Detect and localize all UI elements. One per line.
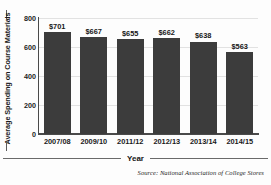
bar-slot: $563: [226, 18, 253, 134]
bar: [44, 32, 71, 134]
x-axis-tick-label: 2012/13: [153, 137, 180, 146]
x-axis-title-rule-right: [150, 158, 268, 159]
x-axis-title: Year: [121, 154, 150, 163]
bar-value-label: $667: [86, 27, 102, 36]
bar-value-label: $655: [122, 29, 138, 38]
y-axis-tick-label: 200: [24, 101, 36, 110]
x-axis-tick-labels: 2007/082009/102011/122012/132013/142014/…: [39, 137, 258, 149]
bar: [153, 38, 180, 134]
plot-area: $701$667$655$662$638$563: [39, 18, 258, 134]
bar-slot: $701: [44, 18, 71, 134]
bar-slot: $638: [190, 18, 217, 134]
bar: [190, 42, 217, 135]
x-axis-tick-label: 2011/12: [117, 137, 143, 146]
y-axis-tick-label: 800: [24, 14, 36, 23]
bar-value-label: $563: [232, 42, 248, 51]
source-note: Source: National Association of College …: [138, 169, 264, 176]
x-axis-title-rule-left: [3, 158, 121, 159]
y-axis-title-dash-bottom: [6, 142, 7, 151]
bar: [80, 37, 107, 134]
x-axis-tick-label: 2014/15: [226, 137, 253, 146]
y-axis-tick-labels: 0200400600800: [14, 0, 38, 160]
bar-value-label: $701: [49, 22, 65, 31]
y-axis-title-group: Average Spending on Course Materials: [0, 8, 14, 153]
bar-slot: $655: [117, 18, 144, 134]
bar: [226, 52, 253, 134]
y-axis-tick-label: 600: [24, 43, 36, 52]
x-axis-tick-label: 2007/08: [44, 137, 71, 146]
y-axis-tick-label: 400: [24, 72, 36, 81]
x-axis-title-group: Year: [3, 152, 268, 164]
bar-value-label: $638: [195, 31, 211, 40]
plot-inner: $701$667$655$662$638$563: [39, 18, 258, 134]
gridline: [39, 105, 258, 106]
x-axis-tick-label: 2009/10: [80, 137, 107, 146]
x-axis-tick-label: 2013/14: [190, 137, 217, 146]
y-axis-tick-label: 0: [32, 130, 36, 139]
bar-chart-figure: Average Spending on Course Materials 020…: [0, 0, 271, 185]
gridline: [39, 47, 258, 48]
bar: [117, 39, 144, 134]
y-axis-title: Average Spending on Course Materials: [3, 7, 12, 151]
gridline: [39, 18, 258, 19]
bar-slot: $662: [153, 18, 180, 134]
gridline: [39, 76, 258, 77]
bar-value-label: $662: [159, 28, 175, 37]
bar-slot: $667: [80, 18, 107, 134]
